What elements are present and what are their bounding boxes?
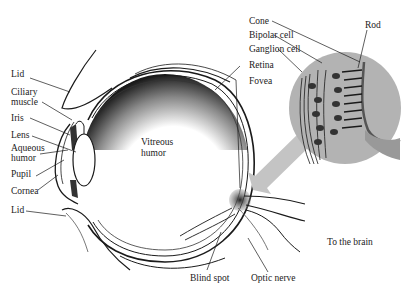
label-cornea: Cornea	[11, 186, 38, 196]
label-bipolar-cell: Bipolar cell	[249, 30, 294, 40]
label-aqueous-humor-2: humor	[11, 153, 36, 163]
eye-diagram	[0, 0, 407, 293]
label-optic-nerve: Optic nerve	[251, 273, 296, 283]
eyeball	[81, 64, 254, 268]
anterior-eye	[55, 50, 130, 270]
label-ciliary-muscle-2: muscle	[11, 97, 38, 107]
label-lid-bottom: Lid	[11, 205, 24, 215]
label-iris: Iris	[11, 113, 24, 123]
label-fovea: Fovea	[249, 76, 272, 86]
label-cone: Cone	[249, 16, 269, 26]
label-lens: Lens	[11, 130, 29, 140]
label-blind-spot: Blind spot	[190, 273, 229, 283]
label-ciliary-muscle-1: Ciliary	[11, 87, 37, 97]
label-to-the-brain: To the brain	[327, 237, 373, 247]
label-rod: Rod	[365, 20, 381, 30]
label-aqueous-humor-1: Aqueous	[11, 143, 45, 153]
retina-magnifier	[289, 52, 401, 164]
label-ganglion-cell: Ganglion cell	[249, 44, 300, 54]
label-pupil: Pupil	[11, 169, 31, 179]
label-retina: Retina	[249, 60, 274, 70]
label-vitreous-humor-2: humor	[141, 148, 166, 158]
label-lid-top: Lid	[11, 69, 24, 79]
label-vitreous-humor-1: Vitreous	[141, 137, 173, 147]
